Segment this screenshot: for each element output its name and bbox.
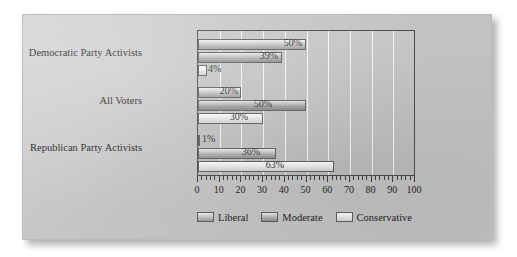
gridline <box>328 31 329 175</box>
axis-tick-minor <box>314 176 315 180</box>
gridline <box>307 31 308 175</box>
chart-legend: Liberal Moderate Conservative <box>197 209 422 225</box>
bar-value-republican-conservative: 63% <box>266 159 284 171</box>
axis-tick-label: 60 <box>322 183 332 196</box>
axis-tick-minor <box>297 176 298 180</box>
axis-tick-minor <box>405 176 406 180</box>
axis-tick-label: 80 <box>366 183 376 196</box>
axis-tick-major <box>240 176 241 182</box>
axis-tick-label: 30 <box>257 183 267 196</box>
conservative-swatch-icon <box>336 212 353 222</box>
bar-value-all-voters-moderate: 50% <box>254 98 272 110</box>
axis-tick-major <box>306 176 307 182</box>
chart-screenshot: Democratic Party Activists All Voters Re… <box>0 0 517 257</box>
gridline <box>372 31 373 175</box>
axis-tick-minor <box>258 176 259 180</box>
axis-tick-minor <box>332 176 333 180</box>
axis-tick-minor <box>279 176 280 180</box>
gridline <box>393 31 394 175</box>
axis-tick-minor <box>292 176 293 180</box>
axis-tick-minor <box>375 176 376 180</box>
category-label-all-voters: All Voters <box>100 95 143 106</box>
axis-tick-minor <box>271 176 272 180</box>
axis-tick-minor <box>275 176 276 180</box>
bar-value-democratic-liberal: 50% <box>284 37 302 49</box>
bar-value-democratic-moderate: 39% <box>260 50 278 62</box>
axis-tick-minor <box>223 176 224 180</box>
axis-tick-minor <box>249 176 250 180</box>
axis-tick-minor <box>336 176 337 180</box>
legend-label-conservative: Conservative <box>357 212 412 223</box>
bar-value-republican-liberal: 1% <box>202 133 215 145</box>
axis-tick-minor <box>201 176 202 180</box>
axis-tick-label: 70 <box>344 183 354 196</box>
legend-item-liberal[interactable]: Liberal <box>197 212 248 223</box>
x-axis-ticks <box>197 176 415 183</box>
category-label-republican-party-activists: Republican Party Activists <box>30 142 142 153</box>
axis-tick-minor <box>227 176 228 180</box>
gridline <box>350 31 351 175</box>
category-label-democratic-party-activists: Democratic Party Activists <box>29 47 142 58</box>
axis-tick-minor <box>362 176 363 180</box>
axis-tick-minor <box>401 176 402 180</box>
moderate-swatch-icon <box>261 212 278 222</box>
axis-tick-label: 50 <box>301 183 311 196</box>
axis-tick-major <box>327 176 328 182</box>
plot-area: 50% 39% 4% 20% 50% 30% <box>197 30 415 176</box>
axis-tick-label: 10 <box>214 183 224 196</box>
axis-tick-minor <box>288 176 289 180</box>
axis-tick-minor <box>384 176 385 180</box>
axis-tick-minor <box>379 176 380 180</box>
axis-tick-major <box>219 176 220 182</box>
legend-label-liberal: Liberal <box>218 212 248 223</box>
axis-tick-label: 20 <box>235 183 245 196</box>
axis-tick-minor <box>206 176 207 180</box>
axis-tick-minor <box>358 176 359 180</box>
axis-tick-minor <box>345 176 346 180</box>
axis-tick-major <box>284 176 285 182</box>
chart-card: Democratic Party Activists All Voters Re… <box>22 14 492 240</box>
bar-republican-moderate[interactable] <box>198 148 276 159</box>
legend-label-moderate: Moderate <box>282 212 322 223</box>
axis-tick-major <box>371 176 372 182</box>
axis-tick-minor <box>319 176 320 180</box>
axis-tick-major <box>392 176 393 182</box>
axis-tick-minor <box>266 176 267 180</box>
bar-value-republican-moderate: 36% <box>242 146 260 158</box>
axis-tick-major <box>197 176 198 182</box>
axis-tick-major <box>349 176 350 182</box>
axis-tick-minor <box>340 176 341 180</box>
axis-tick-major <box>262 176 263 182</box>
bar-value-all-voters-liberal: 20% <box>220 85 238 97</box>
bar-value-all-voters-conservative: 30% <box>230 111 248 123</box>
axis-tick-minor <box>397 176 398 180</box>
axis-tick-label: 100 <box>407 183 422 196</box>
legend-item-conservative[interactable]: Conservative <box>336 212 412 223</box>
axis-tick-minor <box>214 176 215 180</box>
legend-item-moderate[interactable]: Moderate <box>261 212 322 223</box>
axis-tick-label: 0 <box>195 183 200 196</box>
axis-tick-label: 40 <box>279 183 289 196</box>
axis-tick-minor <box>366 176 367 180</box>
axis-tick-minor <box>323 176 324 180</box>
axis-tick-minor <box>236 176 237 180</box>
axis-tick-minor <box>310 176 311 180</box>
bar-value-democratic-conservative: 4% <box>208 63 221 75</box>
axis-tick-minor <box>253 176 254 180</box>
axis-tick-minor <box>210 176 211 180</box>
axis-tick-label: 90 <box>387 183 397 196</box>
axis-tick-minor <box>301 176 302 180</box>
axis-tick-minor <box>388 176 389 180</box>
x-axis-labels: 0102030405060708090100 <box>197 183 415 197</box>
axis-tick-minor <box>245 176 246 180</box>
bar-republican-liberal[interactable] <box>198 135 200 146</box>
liberal-swatch-icon <box>197 212 214 222</box>
bar-democratic-conservative[interactable] <box>198 65 207 76</box>
bar-all-voters-moderate[interactable] <box>198 100 306 111</box>
axis-tick-minor <box>353 176 354 180</box>
axis-tick-minor <box>410 176 411 180</box>
axis-tick-major <box>414 176 415 182</box>
axis-tick-minor <box>232 176 233 180</box>
